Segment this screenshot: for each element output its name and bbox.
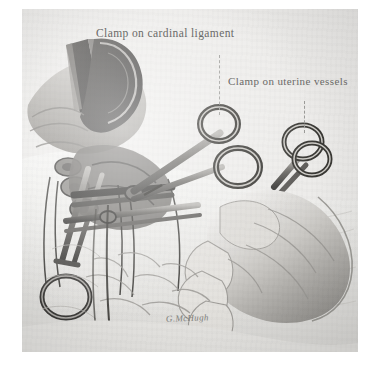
leader-line-cardinal-ligament bbox=[219, 55, 220, 115]
leader-line-uterine-vessels bbox=[304, 101, 305, 133]
label-uterine-vessels: Clamp on uterine vessels bbox=[228, 75, 348, 87]
illustration-plate: Clamp on cardinal ligament Clamp on uter… bbox=[0, 0, 382, 375]
illustration-paper bbox=[22, 9, 358, 352]
artist-signature: G.McHugh bbox=[166, 312, 209, 323]
label-cardinal-ligament: Clamp on cardinal ligament bbox=[96, 27, 234, 39]
surgical-scene-drawing bbox=[22, 9, 358, 352]
